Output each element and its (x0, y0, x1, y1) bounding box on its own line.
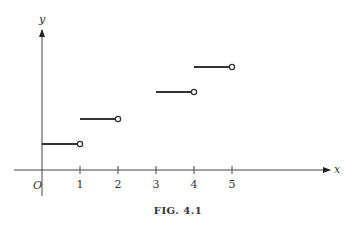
y-axis-label: y (38, 13, 46, 26)
x-tick-label-4: 4 (191, 178, 198, 191)
x-axis-label: x (334, 163, 341, 176)
origin-label: O (33, 179, 42, 192)
x-tick-label-3: 3 (153, 178, 160, 191)
figure-caption: FIG. 4.1 (154, 205, 202, 216)
x-tick-label-2: 2 (115, 178, 122, 191)
step-segments (42, 64, 235, 146)
x-tick-label-1: 1 (77, 178, 84, 191)
x-tick-label-5: 5 (229, 178, 236, 191)
step-function-figure: 1 2 3 4 5 O y x FIG. 4.1 (0, 0, 356, 230)
